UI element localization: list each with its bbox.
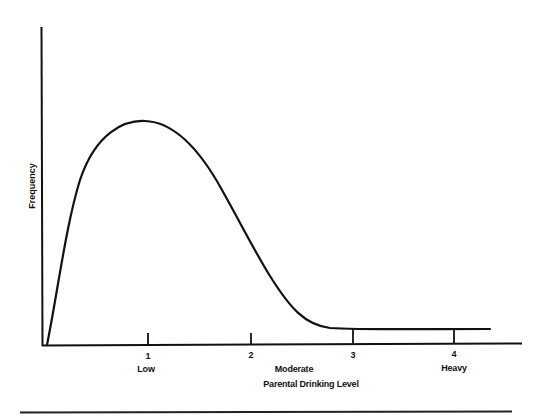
chart-canvas — [0, 0, 545, 420]
frequency-curve — [47, 121, 490, 345]
x-category-heavy: Heavy — [441, 363, 467, 373]
y-axis-label: Frequency — [27, 163, 37, 209]
x-category-moderate: Moderate — [275, 364, 313, 374]
x-tick-label-4: 4 — [452, 349, 457, 359]
x-tick-label-1: 1 — [146, 351, 151, 361]
x-axis-label: Parental Drinking Level — [263, 379, 358, 389]
y-axis — [42, 27, 43, 346]
x-tick-label-2: 2 — [249, 350, 254, 360]
x-axis — [42, 344, 522, 346]
bottom-rule — [20, 412, 512, 413]
x-category-low: Low — [137, 364, 154, 374]
x-tick-label-3: 3 — [351, 350, 356, 360]
